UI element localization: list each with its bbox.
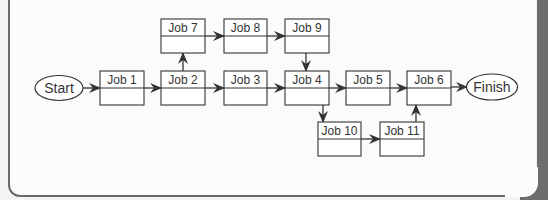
- finish-node: Finish: [467, 74, 518, 100]
- job-10-label: Job 10: [321, 124, 357, 138]
- start-label: Start: [44, 80, 74, 96]
- network-diagram: Start Finish: [0, 0, 548, 200]
- finish-label: Finish: [473, 79, 510, 95]
- start-node: Start: [35, 76, 83, 101]
- job-9-label: Job 9: [292, 21, 322, 35]
- job-8-label: Job 8: [231, 21, 261, 35]
- job-5-label: Job 5: [353, 73, 383, 87]
- job-4-label: Job 4: [292, 73, 322, 87]
- job-1-label: Job 1: [107, 73, 137, 87]
- job-6-label: Job 6: [414, 73, 444, 87]
- job-7-label: Job 7: [168, 21, 198, 35]
- job-3-label: Job 3: [231, 73, 261, 87]
- job-11-label: Job 11: [384, 124, 419, 138]
- job-2-label: Job 2: [168, 73, 198, 87]
